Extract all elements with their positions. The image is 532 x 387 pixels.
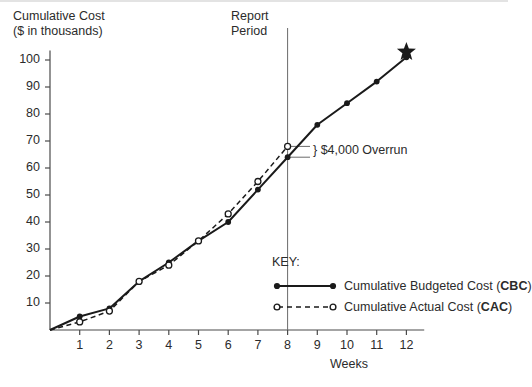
legend-label-cac: Cumulative Actual Cost (CAC) bbox=[344, 300, 512, 314]
legend-swatch-solid bbox=[272, 279, 338, 293]
chart-legend: KEY: Cumulative Budgeted Cost (CBC) Cumu… bbox=[272, 255, 532, 317]
legend-swatch-dashed bbox=[272, 300, 338, 314]
overrun-bracket bbox=[288, 146, 310, 157]
legend-title: KEY: bbox=[272, 255, 532, 269]
legend-label-cbc: Cumulative Budgeted Cost (CBC) bbox=[344, 279, 532, 293]
legend-item-cac: Cumulative Actual Cost (CAC) bbox=[272, 296, 532, 317]
legend-item-cbc: Cumulative Budgeted Cost (CBC) bbox=[272, 275, 532, 296]
